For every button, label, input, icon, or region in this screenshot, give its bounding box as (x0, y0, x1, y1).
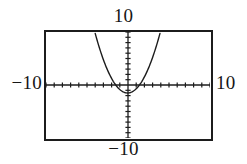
x-max-label: 10 (216, 73, 247, 92)
x-min-label: −10 (0, 73, 42, 92)
y-min-label: −10 (0, 139, 247, 158)
viewing-window-frame (44, 30, 213, 141)
plot-canvas (46, 32, 210, 138)
graph-figure: 10 −10 10 −10 (0, 0, 247, 164)
y-max-label: 10 (0, 6, 247, 25)
